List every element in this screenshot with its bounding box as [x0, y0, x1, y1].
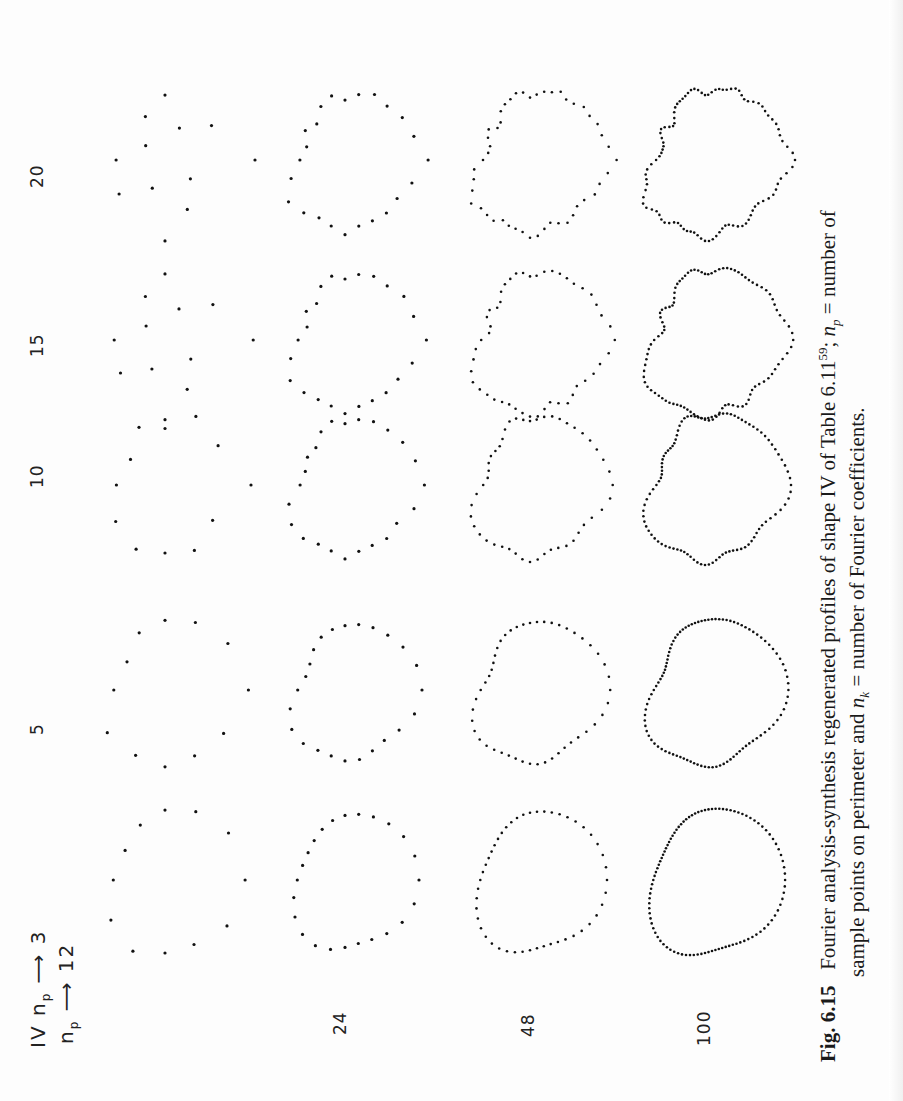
- np-row-symbol: np: [54, 1020, 78, 1044]
- figure-caption-line1: Fig. 6.15 Fourier analysis-synthesis reg…: [815, 210, 844, 1062]
- profile-np100-nk5: [644, 618, 790, 769]
- arrow-right-icon: ⟶: [26, 953, 50, 984]
- row-label-12: 12: [54, 943, 78, 972]
- profile-np24-nk5: [289, 623, 424, 763]
- profile-np48-nk3: [475, 810, 608, 953]
- profile-np12-nk5: [106, 619, 250, 769]
- profile-np100-nk15: [643, 267, 795, 422]
- row-label-24: 24: [330, 1011, 350, 1035]
- figure-caption-line2: sample points on perimeter and nk = numb…: [845, 407, 873, 977]
- book-page: IV np ⟶ 3 np ⟶ 12 5 10 15 20 24 48 100 F…: [0, 0, 903, 1101]
- profile-np100-nk20: [642, 87, 797, 242]
- profile-np24-nk3: [292, 813, 420, 951]
- profile-np12-nk3: [109, 809, 246, 955]
- column-label-3: 3: [26, 930, 50, 945]
- column-label-20: 20: [27, 164, 47, 188]
- row-label-100: 100: [694, 1011, 714, 1046]
- shape-label: IV: [26, 1024, 50, 1048]
- profile-np48-nk5: [471, 621, 612, 766]
- page-edge: [889, 0, 903, 1101]
- profile-np12-nk15: [113, 272, 255, 421]
- row-label-48: 48: [518, 1013, 538, 1037]
- row-header: np ⟶ 12: [54, 943, 81, 1044]
- profile-np100-nk10: [642, 412, 792, 566]
- profile-np100-nk3: [648, 808, 786, 957]
- arrow-down-icon: ⟶: [54, 981, 78, 1012]
- profile-np24-nk15: [289, 273, 428, 415]
- profile-np12-nk20: [115, 94, 257, 243]
- figure-number: Fig. 6.15: [816, 986, 840, 1062]
- profile-np24-nk10: [287, 418, 426, 560]
- profiles-grid: [0, 0, 903, 1101]
- profile-np48-nk15: [470, 270, 616, 418]
- profile-np12-nk10: [114, 415, 253, 555]
- column-label-15: 15: [27, 333, 47, 357]
- column-label-10: 10: [27, 464, 47, 488]
- shape-header: IV np ⟶ 3: [26, 930, 53, 1048]
- profile-np24-nk20: [287, 93, 430, 236]
- profile-np48-nk20: [470, 91, 618, 240]
- profile-np48-nk10: [470, 415, 614, 563]
- np-symbol: np: [26, 992, 50, 1016]
- column-label-5: 5: [27, 723, 47, 735]
